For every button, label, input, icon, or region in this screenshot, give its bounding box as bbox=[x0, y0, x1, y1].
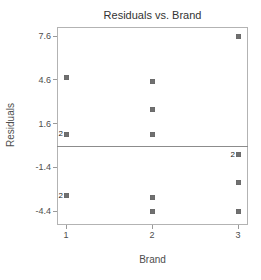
data-point-marker bbox=[64, 193, 69, 198]
y-axis-tick bbox=[53, 123, 57, 124]
y-tick-label: 4.6 bbox=[18, 75, 51, 85]
x-axis-tick bbox=[152, 225, 153, 229]
data-point-marker bbox=[236, 34, 241, 39]
data-point-marker bbox=[236, 209, 241, 214]
data-point-marker bbox=[64, 132, 69, 137]
data-point-marker bbox=[236, 180, 241, 185]
y-axis-label: Residuals bbox=[5, 75, 17, 175]
y-axis-tick bbox=[53, 79, 57, 80]
zero-reference-line bbox=[57, 146, 248, 147]
x-tick-label: 1 bbox=[56, 230, 76, 240]
x-axis-label: Brand bbox=[57, 254, 248, 265]
chart-title: Residuals vs. Brand bbox=[57, 9, 248, 21]
x-axis-tick bbox=[66, 225, 67, 229]
y-tick-label: 1.6 bbox=[18, 119, 51, 129]
y-axis-tick bbox=[53, 36, 57, 37]
y-tick-label: -1.4 bbox=[18, 162, 51, 172]
y-tick-label: -4.4 bbox=[18, 206, 51, 216]
data-point-marker bbox=[150, 107, 155, 112]
data-point-marker bbox=[150, 195, 155, 200]
point-multiplicity-label: 2 bbox=[55, 130, 63, 138]
data-point-marker bbox=[150, 132, 155, 137]
x-tick-label: 3 bbox=[228, 230, 248, 240]
point-multiplicity-label: 2 bbox=[55, 192, 63, 200]
y-tick-label: 7.6 bbox=[18, 31, 51, 41]
data-point-marker bbox=[64, 75, 69, 80]
y-axis-tick bbox=[53, 211, 57, 212]
x-axis-tick bbox=[238, 225, 239, 229]
data-point-marker bbox=[236, 152, 241, 157]
y-axis-tick bbox=[53, 167, 57, 168]
data-point-marker bbox=[150, 209, 155, 214]
data-point-marker bbox=[150, 79, 155, 84]
point-multiplicity-label: 2 bbox=[227, 151, 235, 159]
x-tick-label: 2 bbox=[142, 230, 162, 240]
scatter-plot-window: Residuals vs. Brand Residuals 7.64.61.6-… bbox=[0, 0, 261, 280]
